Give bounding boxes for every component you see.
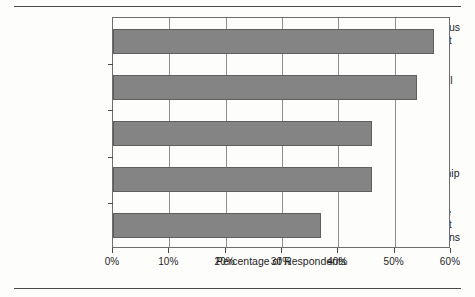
x-tick-mark (450, 248, 451, 253)
bottom-rule (14, 288, 461, 289)
category-tick-mark (108, 157, 113, 158)
x-tick-mark (225, 248, 226, 253)
x-tick-mark (394, 248, 395, 253)
category-tick-mark (108, 64, 113, 65)
x-tick-mark (337, 248, 338, 253)
bar (113, 121, 372, 146)
x-axis-title: Percentage of Respondents (112, 255, 450, 267)
plot-area (112, 17, 450, 248)
figure: Joint ContinuousImprovementObjectivesSer… (0, 0, 475, 297)
category-tick-mark (108, 110, 113, 111)
top-rule (14, 6, 461, 7)
x-tick-mark (168, 248, 169, 253)
bar (113, 75, 417, 100)
x-tick-mark (281, 248, 282, 253)
bar (113, 167, 372, 192)
x-tick-mark (112, 248, 113, 253)
bar (113, 213, 321, 238)
category-tick-mark (108, 203, 113, 204)
bar (113, 29, 434, 54)
